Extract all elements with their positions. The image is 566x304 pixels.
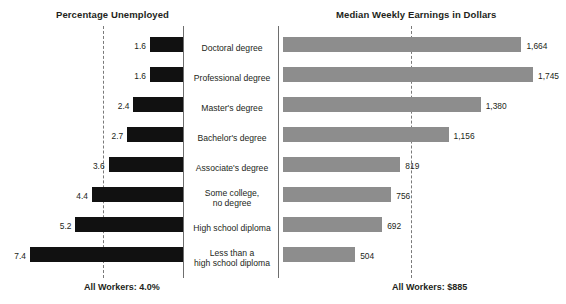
earnings-value-label: 504 [360, 251, 374, 261]
left-panel-title: Percentage Unemployed [56, 9, 169, 20]
category-label: Associate's degree [184, 163, 280, 174]
category-label: High school diploma [184, 223, 280, 234]
category-label: Bachelor's degree [184, 133, 280, 144]
earnings-bar [283, 127, 449, 142]
earnings-bar [283, 187, 391, 202]
unemployment-value-label: 1.6 [124, 71, 146, 81]
earnings-bar [283, 67, 533, 82]
unemployment-bar [92, 187, 183, 202]
earnings-bar [283, 247, 355, 262]
right-panel-title: Median Weekly Earnings in Dollars [336, 9, 496, 20]
category-label: Less than a high school diploma [184, 248, 280, 269]
category-label: Some college, no degree [184, 188, 280, 209]
unemployment-value-label: 5.2 [49, 221, 71, 231]
all-workers-earnings-reference-line [411, 26, 412, 278]
right-panel-footer: All Workers: $885 [392, 282, 467, 292]
earnings-value-label: 692 [387, 221, 401, 231]
unemployment-bar [150, 67, 183, 82]
category-label: Professional degree [184, 73, 280, 84]
earnings-bar [283, 37, 521, 52]
category-label: Doctoral degree [184, 43, 280, 54]
unemployment-bar [109, 157, 183, 172]
earnings-value-label: 1,156 [454, 131, 475, 141]
left-panel-footer: All Workers: 4.0% [84, 282, 160, 292]
earnings-value-label: 1,380 [486, 101, 507, 111]
all-workers-unemployment-reference-line [103, 26, 104, 278]
unemployment-value-label: 7.4 [4, 251, 26, 261]
category-label: Master's degree [184, 103, 280, 114]
unemployment-value-label: 2.7 [101, 131, 123, 141]
earnings-bar [283, 217, 382, 232]
earnings-value-label: 1,664 [526, 41, 547, 51]
education-unemployment-earnings-chart: Percentage Unemployed Median Weekly Earn… [0, 0, 566, 304]
unemployment-bar [133, 97, 183, 112]
category-label-column: Doctoral degreeProfessional degreeMaster… [183, 26, 279, 278]
unemployment-value-label: 2.4 [107, 101, 129, 111]
unemployment-bar [150, 37, 183, 52]
unemployment-bar [75, 217, 183, 232]
unemployment-value-label: 4.4 [66, 191, 88, 201]
unemployment-value-label: 3.6 [83, 161, 105, 171]
unemployment-value-label: 1.6 [124, 41, 146, 51]
earnings-value-label: 1,745 [538, 71, 559, 81]
earnings-bar [283, 157, 400, 172]
earnings-value-label: 819 [405, 161, 419, 171]
earnings-bar [283, 97, 481, 112]
earnings-value-label: 756 [396, 191, 410, 201]
unemployment-bar [30, 247, 183, 262]
unemployment-bar [127, 127, 183, 142]
